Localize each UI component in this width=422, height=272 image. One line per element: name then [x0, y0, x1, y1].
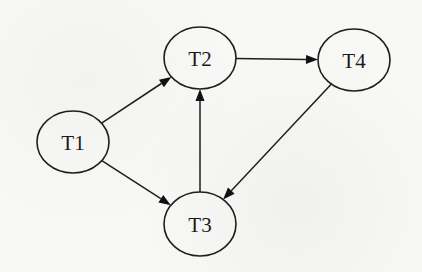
edge-line [236, 59, 306, 60]
edge-t2-to-t4 [236, 55, 318, 64]
arrowhead-icon [159, 77, 171, 87]
edge-t3-to-t2 [196, 89, 205, 192]
edges-layer [102, 55, 332, 205]
edge-line [102, 161, 161, 199]
node-t4: T4 [318, 29, 390, 91]
graph-svg: T1T2T3T4 [0, 0, 422, 272]
edge-t4-to-t3 [223, 84, 331, 199]
node-t3: T3 [164, 192, 236, 256]
nodes-layer: T1T2T3T4 [37, 27, 390, 256]
edge-line [102, 84, 162, 124]
arrowhead-icon [306, 55, 318, 64]
edge-t1-to-t2 [102, 77, 172, 123]
arrowhead-icon [158, 195, 171, 205]
node-label: T4 [342, 49, 366, 73]
edge-t1-to-t3 [102, 161, 171, 206]
node-t2: T2 [164, 27, 236, 89]
node-t1: T1 [37, 111, 109, 173]
node-label: T2 [188, 47, 211, 71]
precedence-graph: T1T2T3T4 [0, 0, 422, 272]
arrowhead-icon [196, 89, 205, 101]
node-label: T1 [61, 131, 84, 155]
node-label: T3 [188, 213, 211, 237]
edge-line [231, 84, 331, 191]
